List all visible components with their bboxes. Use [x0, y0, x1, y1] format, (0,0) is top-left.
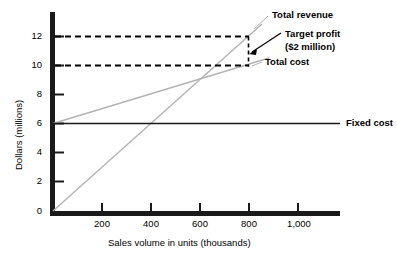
y-tick-marks [55, 37, 64, 182]
breakeven-chart: 12 10 8 6 4 2 0 200 400 600 800 1,000 Do… [0, 0, 397, 258]
y-tick-label-6: 6 [22, 118, 42, 128]
x-tick-label-1000: 1,000 [283, 219, 315, 229]
y-tick-label-10: 10 [22, 60, 42, 70]
y-tick-label-12: 12 [22, 31, 42, 41]
x-tick-label-200: 200 [90, 219, 114, 229]
x-tick-label-400: 400 [139, 219, 163, 229]
y-tick-label-4: 4 [22, 147, 42, 157]
y-tick-label-2: 2 [22, 176, 42, 186]
x-tick-marks [102, 203, 298, 211]
x-tick-label-600: 600 [188, 219, 212, 229]
total-cost-label: Total cost [265, 57, 309, 67]
x-axis-line [50, 211, 340, 216]
total-revenue-line [53, 24, 262, 211]
y-tick-label-8: 8 [22, 89, 42, 99]
total-revenue-label: Total revenue [272, 10, 333, 20]
target-profit-arrow-head [249, 49, 257, 55]
x-tick-label-800: 800 [237, 219, 261, 229]
y-axis-title: Dollars (millions) [14, 100, 24, 170]
y-axis-line [50, 12, 55, 215]
x-axis-title: Sales volume in units (thousands) [108, 238, 251, 248]
y-tick-label-0: 0 [22, 206, 42, 216]
target-profit-arrow-shaft [252, 33, 281, 52]
total-revenue-leader-line [254, 16, 268, 29]
target-profit-amount-label: ($2 million) [285, 42, 335, 52]
fixed-cost-label: Fixed cost [346, 118, 393, 128]
target-profit-label: Target profit [285, 29, 340, 39]
